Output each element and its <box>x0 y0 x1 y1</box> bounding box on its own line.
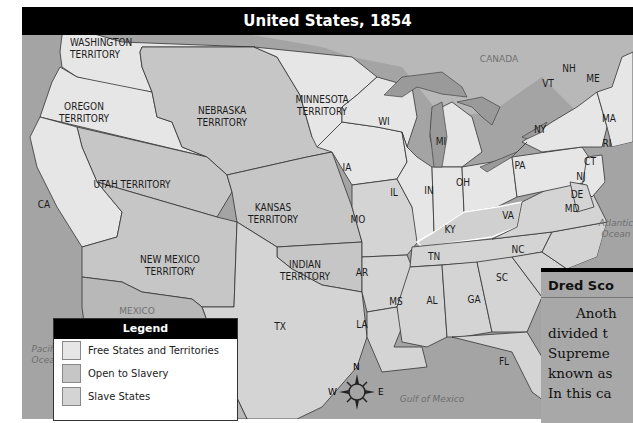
label-la: LA <box>356 319 367 331</box>
label-me: ME <box>586 73 599 85</box>
legend-label: Free States and Territories <box>88 345 219 356</box>
panel-body: Anoth divided t Supreme known as In this… <box>541 303 633 403</box>
label-nh: NH <box>562 63 576 75</box>
panel-heading: Dred Sco <box>541 272 633 298</box>
legend-title: Legend <box>54 319 237 339</box>
label-pa: PA <box>515 160 526 172</box>
label-nebraska-territory: NEBRASKA TERRITORY <box>197 105 247 129</box>
legend-swatch-free <box>62 341 81 360</box>
label-ga: GA <box>467 294 480 306</box>
legend-swatch-open <box>62 364 81 383</box>
label-washington-territory: WASHINGTON TERRITORY <box>70 37 132 61</box>
compass-n: N <box>353 362 360 372</box>
compass-e: E <box>378 387 384 397</box>
legend-item-slave-states: Slave States <box>54 385 237 408</box>
label-kansas-territory: KANSAS TERRITORY <box>248 202 298 226</box>
compass-rose-icon: N W E <box>332 362 382 419</box>
map-legend: Legend Free States and Territories Open … <box>53 318 238 421</box>
label-gulf-of-mexico: Gulf of Mexico <box>400 394 464 405</box>
label-ny: NY <box>534 124 546 136</box>
label-nc: NC <box>511 244 524 256</box>
label-tn: TN <box>428 251 440 263</box>
label-tx: TX <box>274 321 286 333</box>
legend-item-open-to-slavery: Open to Slavery <box>54 362 237 385</box>
compass-w: W <box>328 387 337 397</box>
label-canada: CANADA <box>480 54 518 64</box>
legend-item-free: Free States and Territories <box>54 339 237 362</box>
label-al: AL <box>426 295 437 307</box>
label-md: MD <box>565 203 580 215</box>
label-mexico: MEXICO <box>119 306 155 316</box>
label-new-mexico-territory: NEW MEXICO TERRITORY <box>140 254 200 278</box>
label-ms: MS <box>389 296 402 308</box>
label-il: IL <box>390 187 398 199</box>
label-ar: AR <box>356 267 368 279</box>
panel-line: In this ca <box>548 383 633 403</box>
dred-scott-panel: Dred Sco Anoth divided t Supreme known a… <box>541 268 633 423</box>
label-mo: MO <box>351 214 366 226</box>
panel-line: divided t <box>548 323 633 343</box>
panel-line: Anoth <box>548 303 633 323</box>
legend-label: Slave States <box>88 391 150 402</box>
panel-line: known as <box>548 363 633 383</box>
label-mi: MI <box>436 136 446 148</box>
label-sc: SC <box>496 272 508 284</box>
label-ky: KY <box>444 224 455 236</box>
panel-line: Supreme <box>548 343 633 363</box>
label-ia: IA <box>343 162 352 174</box>
map-title: United States, 1854 <box>22 7 633 35</box>
label-wi: WI <box>378 116 390 128</box>
label-nj: NJ <box>576 171 585 183</box>
label-indian-territory: INDIAN TERRITORY <box>280 259 330 283</box>
legend-label: Open to Slavery <box>88 368 168 379</box>
label-ri: RI <box>603 138 612 150</box>
label-vt: VT <box>542 78 554 90</box>
label-minnesota-territory: MINNESOTA TERRITORY <box>295 94 348 118</box>
legend-swatch-slave <box>62 387 81 406</box>
label-ma: MA <box>602 113 616 125</box>
label-oh: OH <box>456 177 470 189</box>
label-utah-territory: UTAH TERRITORY <box>93 179 170 191</box>
label-de: DE <box>571 189 584 201</box>
label-oregon-territory: OREGON TERRITORY <box>59 101 109 125</box>
label-va: VA <box>502 210 514 222</box>
label-in: IN <box>424 185 433 197</box>
label-fl: FL <box>499 356 509 368</box>
label-ct: CT <box>584 156 596 168</box>
label-atlantic-ocean: Atlantic Ocean <box>599 218 633 240</box>
label-ca: CA <box>38 199 50 211</box>
